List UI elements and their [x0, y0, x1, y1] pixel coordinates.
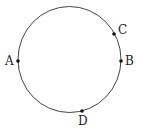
- label-d: D: [78, 114, 88, 128]
- point-c: [112, 32, 116, 36]
- label-b: B: [125, 54, 134, 68]
- point-d: [80, 109, 84, 113]
- circle-diagram: A B C D: [0, 0, 143, 128]
- label-a: A: [4, 54, 14, 68]
- point-a: [16, 59, 20, 63]
- label-c: C: [118, 23, 127, 37]
- circle: [18, 7, 121, 113]
- point-b: [119, 59, 123, 63]
